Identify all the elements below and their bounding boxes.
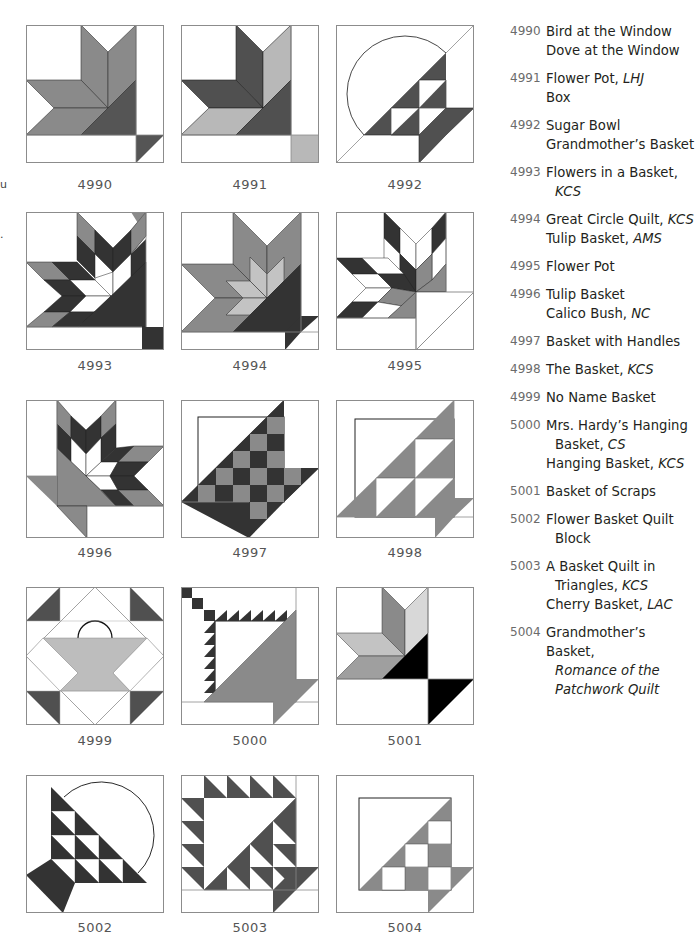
- entry-number: 4991: [510, 69, 546, 107]
- entry-name: Box: [546, 88, 698, 107]
- entry-source: Patchwork Quilt: [546, 680, 698, 699]
- index-entry: 4991 Flower Pot, LHJ Box: [510, 69, 698, 107]
- index-entry: 4992 Sugar Bowl Grandmother’s Basket: [510, 116, 698, 154]
- entry-source: NC: [631, 306, 650, 321]
- entry-name-cont: Block: [546, 529, 698, 548]
- entry-name: Dove at the Window: [546, 41, 698, 60]
- entry-name: Grandmother’s Basket,: [546, 625, 646, 659]
- index-entry: 5003 A Basket Quilt in Triangles, KCS Ch…: [510, 557, 698, 614]
- block-caption: 5001: [336, 733, 474, 748]
- entry-name: Sugar Bowl: [546, 116, 698, 135]
- entry-name: No Name Basket: [546, 388, 698, 407]
- entry-source: LHJ: [623, 71, 644, 86]
- index-entry: 4997 Basket with Handles: [510, 332, 698, 351]
- quilt-block-4996: [26, 400, 164, 538]
- entry-number: 5002: [510, 510, 546, 548]
- entry-name: Flower Basket Quilt: [546, 512, 674, 527]
- entry-name: Flowers in a Basket,: [546, 165, 678, 180]
- quilt-block-4992: [336, 25, 474, 163]
- entry-name: Great Circle Quilt,: [546, 212, 664, 227]
- block-caption: 4993: [26, 358, 164, 373]
- entry-name: Calico Bush,: [546, 306, 627, 321]
- quilt-block-5000: [181, 587, 319, 725]
- quilt-block-5001: [336, 587, 474, 725]
- margin-fragment: u: [0, 178, 7, 191]
- block-caption: 4997: [181, 545, 319, 560]
- entry-number: 4998: [510, 360, 546, 379]
- entry-name: Bird at the Window: [546, 22, 698, 41]
- block-caption: 4998: [336, 545, 474, 560]
- index-entry: 5002 Flower Basket Quilt Block: [510, 510, 698, 548]
- entry-name: Mrs. Hardy’s Hanging: [546, 418, 688, 433]
- block-caption: 5002: [26, 920, 164, 935]
- quilt-block-4991: [181, 25, 319, 163]
- entry-number: 5003: [510, 557, 546, 614]
- entry-name-cont: Triangles,: [555, 578, 618, 593]
- entry-name: Hanging Basket,: [546, 456, 654, 471]
- entry-source: KCS: [628, 362, 654, 377]
- index-entry: 4996 Tulip Basket Calico Bush, NC: [510, 285, 698, 323]
- index-entry: 4998 The Basket, KCS: [510, 360, 698, 379]
- index-entry: 5004 Grandmother’s Basket, Romance of th…: [510, 623, 698, 699]
- entry-source: KCS: [658, 456, 684, 471]
- entry-number: 5000: [510, 416, 546, 473]
- block-caption: 4990: [26, 177, 164, 192]
- block-caption: 5000: [181, 733, 319, 748]
- entry-number: 4990: [510, 22, 546, 60]
- quilt-block-4999: [26, 587, 164, 725]
- entry-number: 4992: [510, 116, 546, 154]
- entry-name: Basket of Scraps: [546, 482, 698, 501]
- quilt-block-4997: [181, 400, 319, 538]
- quilt-block-5003: [181, 775, 319, 913]
- quilt-block-4994: [181, 212, 319, 350]
- quilt-block-4993: [26, 212, 164, 350]
- entry-name: Tulip Basket,: [546, 231, 629, 246]
- entry-number: 4994: [510, 210, 546, 248]
- quilt-block-4995: [336, 212, 474, 350]
- block-caption: 5003: [181, 920, 319, 935]
- block-caption: 4991: [181, 177, 319, 192]
- block-caption: 4992: [336, 177, 474, 192]
- entry-name: Grandmother’s Basket: [546, 135, 698, 154]
- entry-name: Cherry Basket,: [546, 597, 643, 612]
- block-caption: 4996: [26, 545, 164, 560]
- index-entry: 4994 Great Circle Quilt, KCS Tulip Baske…: [510, 210, 698, 248]
- entry-number: 4999: [510, 388, 546, 407]
- block-caption: 5004: [336, 920, 474, 935]
- index-entry: 4993 Flowers in a Basket,KCS: [510, 163, 698, 201]
- entry-source: LAC: [647, 597, 673, 612]
- entry-source: CS: [608, 437, 626, 452]
- index-entry: 5001 Basket of Scraps: [510, 482, 698, 501]
- entry-number: 4993: [510, 163, 546, 201]
- index-entry: 5000 Mrs. Hardy’s Hanging Basket, CS Han…: [510, 416, 698, 473]
- entry-number: 5004: [510, 623, 546, 699]
- block-name-index: 4990 Bird at the Window Dove at the Wind…: [510, 22, 698, 708]
- index-entry: 4995 Flower Pot: [510, 257, 698, 276]
- index-entry: 4990 Bird at the Window Dove at the Wind…: [510, 22, 698, 60]
- quilt-block-5002: [26, 775, 164, 913]
- entry-name: The Basket,: [546, 362, 623, 377]
- block-caption: 4994: [181, 358, 319, 373]
- entry-number: 4995: [510, 257, 546, 276]
- entry-source: AMS: [633, 231, 662, 246]
- entry-number: 4996: [510, 285, 546, 323]
- entry-source: KCS: [546, 182, 698, 201]
- entry-number: 5001: [510, 482, 546, 501]
- quilt-block-4990: [26, 25, 164, 163]
- entry-name-cont: Basket,: [555, 437, 604, 452]
- entry-source: KCS: [668, 212, 694, 227]
- entry-number: 4997: [510, 332, 546, 351]
- entry-source: Romance of the: [546, 661, 698, 680]
- entry-name: Basket with Handles: [546, 332, 698, 351]
- entry-name: A Basket Quilt in: [546, 559, 655, 574]
- margin-fragment: .: [0, 228, 4, 241]
- entry-name: Flower Pot,: [546, 71, 619, 86]
- entry-source: KCS: [622, 578, 648, 593]
- entry-name: Tulip Basket: [546, 285, 698, 304]
- block-caption: 4995: [336, 358, 474, 373]
- index-entry: 4999 No Name Basket: [510, 388, 698, 407]
- quilt-block-4998: [336, 400, 474, 538]
- block-caption: 4999: [26, 733, 164, 748]
- entry-name: Flower Pot: [546, 257, 698, 276]
- quilt-block-5004: [336, 775, 474, 913]
